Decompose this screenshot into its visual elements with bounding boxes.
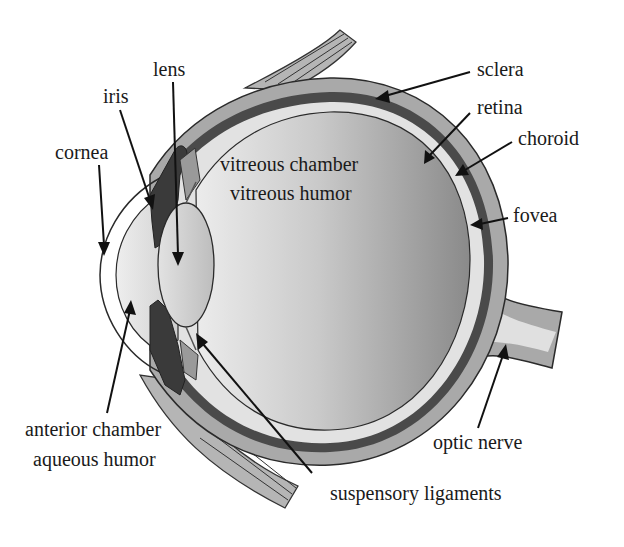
label-lens: lens <box>153 58 185 80</box>
label-optic-nerve: optic nerve <box>433 431 523 454</box>
label-vitreous-humor: vitreous humor <box>230 182 352 204</box>
label-fovea: fovea <box>513 204 558 226</box>
label-suspensory-ligaments: suspensory ligaments <box>330 482 502 505</box>
eye-anatomy-diagram: lens iris cornea sclera retina choroid f… <box>0 0 624 547</box>
label-aqueous-humor: aqueous humor <box>33 448 156 471</box>
lens <box>158 203 214 327</box>
label-vitreous-chamber: vitreous chamber <box>220 153 359 175</box>
label-choroid: choroid <box>518 127 579 149</box>
label-sclera: sclera <box>477 58 524 80</box>
label-retina: retina <box>477 96 523 118</box>
label-anterior-chamber: anterior chamber <box>25 418 161 440</box>
label-cornea: cornea <box>55 141 108 163</box>
label-iris: iris <box>103 85 129 107</box>
